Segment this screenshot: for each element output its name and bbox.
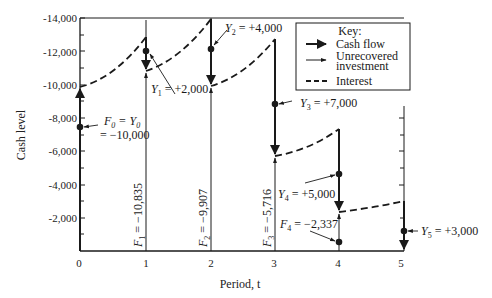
point-y2 — [208, 46, 215, 53]
point-f4 — [336, 239, 343, 246]
x-axis-title: Period, t — [220, 277, 261, 291]
y-tick-label: -6,000 — [49, 145, 78, 157]
y-tick-labels: -14,000 -12,000 -10,000 -8,000 -6,000 -4… — [43, 12, 77, 224]
x-tick-label: 1 — [143, 257, 149, 269]
legend-label: Interest — [336, 74, 373, 88]
annotation-y2: Y2 = +4,000 — [225, 21, 282, 37]
x-tick-label: 5 — [398, 257, 404, 269]
x-tick-label: 4 — [335, 257, 341, 269]
annotation-y5: Y5 = +3,000 — [421, 224, 478, 240]
x-tick-label: 3 — [271, 257, 277, 269]
annotation-f2: F2 = −9,907 — [196, 189, 212, 248]
annotation-y1: Y1 = +2,000 — [151, 82, 208, 98]
cash-flow-chart: -14,000 -12,000 -10,000 -8,000 -6,000 -4… — [0, 0, 492, 298]
annotations: F0 = Y0 = −10,000 Y1 = +2,000 Y2 = +4,00… — [100, 21, 478, 248]
annotation-y3: Y3 = +7,000 — [300, 96, 357, 112]
legend-title: Key: — [338, 24, 361, 38]
x-tick-label: 2 — [208, 257, 214, 269]
x-tick-labels: 0 1 2 3 4 5 — [76, 257, 404, 269]
y-tick-label: -4,000 — [49, 179, 78, 191]
y-tick-label: -14,000 — [43, 12, 77, 24]
legend-label: investment — [336, 59, 389, 73]
annotation-y4: Y4 = +5,000 — [278, 187, 335, 203]
point-f0 — [77, 124, 84, 131]
point-y5 — [401, 228, 408, 235]
y-tick-label: -12,000 — [43, 46, 77, 58]
y-tick-label: -10,000 — [43, 79, 77, 91]
point-y4 — [336, 171, 343, 178]
point-y3 — [272, 101, 279, 108]
y-tick-label: -2,000 — [49, 212, 78, 224]
annotation-f0-value: = −10,000 — [100, 128, 150, 142]
y-tick-label: -8,000 — [49, 112, 78, 124]
y-axis-title: Cash level — [14, 109, 28, 160]
x-tick-label: 0 — [76, 257, 82, 269]
annotation-f1: F1 = −10,835 — [131, 183, 147, 248]
annotation-f3: F3 = −5,716 — [260, 189, 276, 248]
point-y1 — [143, 48, 150, 55]
legend: Key: Cash flow Unrecovered investment In… — [296, 23, 410, 90]
annotation-f4: F4 = −2,337 — [279, 217, 338, 233]
